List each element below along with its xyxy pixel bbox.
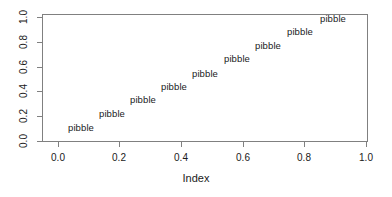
y-axis-tick-label: 1.0 xyxy=(18,10,29,24)
data-point-label: pibble xyxy=(161,82,187,92)
x-axis-tick xyxy=(366,142,367,147)
y-axis-tick-label: 0.6 xyxy=(18,60,29,74)
x-axis-tick xyxy=(58,142,59,147)
data-point-label: pibble xyxy=(320,14,346,24)
y-axis-tick xyxy=(37,116,42,117)
x-axis-tick xyxy=(243,142,244,147)
x-axis-tick xyxy=(181,142,182,147)
data-point-label: pibble xyxy=(130,95,156,105)
y-axis-tick-label: 0.2 xyxy=(18,109,29,123)
x-axis-tick-label: 0.0 xyxy=(51,152,65,163)
x-axis-tick-label: 0.6 xyxy=(236,152,250,163)
y-axis-tick xyxy=(37,67,42,68)
y-axis-tick xyxy=(37,42,42,43)
x-axis-title: Index xyxy=(0,172,392,184)
data-point-label: pibble xyxy=(192,69,218,79)
data-point-label: pibble xyxy=(255,41,281,51)
y-axis-tick-label: 0.8 xyxy=(18,35,29,49)
x-axis-tick-label: 0.4 xyxy=(174,152,188,163)
scatter-plot-figure: pibblepibblepibblepibblepibblepibblepibb… xyxy=(0,0,392,197)
data-point-label: pibble xyxy=(287,27,313,37)
y-axis-tick xyxy=(37,91,42,92)
data-point-label: pibble xyxy=(99,109,125,119)
x-axis-tick-label: 0.2 xyxy=(112,152,126,163)
x-axis-tick xyxy=(304,142,305,147)
y-axis-tick xyxy=(37,17,42,18)
data-point-label: pibble xyxy=(68,123,94,133)
y-axis-tick xyxy=(37,141,42,142)
y-axis-tick-label: 0.4 xyxy=(18,84,29,98)
y-axis-tick-label: 0.0 xyxy=(18,134,29,148)
data-point-label: pibble xyxy=(224,54,250,64)
x-axis-tick-label: 1.0 xyxy=(359,152,373,163)
x-axis-tick xyxy=(119,142,120,147)
x-axis-tick-label: 0.8 xyxy=(297,152,311,163)
